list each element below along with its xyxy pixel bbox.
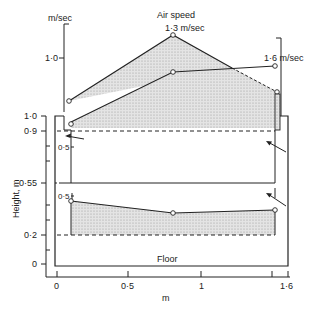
data-point	[273, 208, 278, 213]
outlet-shade	[275, 94, 280, 130]
x-tick-1-6: 1·6	[280, 281, 293, 291]
height-tick-1-0: 1·0	[24, 111, 37, 121]
room-section: 0·5 0·5	[55, 116, 288, 266]
floor-return-shade	[71, 201, 275, 235]
height-tick-0-9: 0·9	[24, 126, 37, 136]
data-point	[69, 122, 74, 127]
lower-scale-tick: 0·5	[58, 192, 70, 201]
data-point	[67, 99, 72, 104]
x-axis: 0 0·5 1 1·6 m	[54, 271, 293, 303]
x-axis-label: m	[162, 293, 170, 303]
data-point	[171, 211, 176, 216]
x-tick-0: 0	[54, 281, 59, 291]
x-tick-0-5: 0·5	[121, 281, 134, 291]
peak-speed-label: 1·3 m/sec	[165, 23, 205, 33]
data-point	[171, 70, 176, 75]
outlet-arrow-lower-icon	[266, 193, 286, 206]
height-axis-label: Height, m	[11, 179, 21, 218]
upper-scale-tick: 0·5	[58, 143, 70, 152]
outlet-arrow-upper-icon	[266, 141, 286, 152]
air-speed-title: Air speed	[157, 10, 195, 20]
height-tick-0-2: 0·2	[24, 230, 37, 240]
airflow-diagram: m/sec 1·0 Air speed 1·3 m/sec 1·6 m/sec …	[0, 0, 317, 314]
floor-label: Floor	[157, 254, 178, 264]
height-tick-0: 0	[32, 259, 37, 269]
right-speed-label: 1·6 m/sec	[264, 53, 304, 63]
data-point	[171, 33, 176, 38]
data-point	[69, 199, 74, 204]
height-axis: 1·0 0·9 0·55 0·2 0 Height, m	[11, 111, 290, 277]
inlet-arrow-icon	[65, 134, 84, 140]
height-tick-0-55: 0·55	[19, 178, 37, 188]
speed-tick-1: 1·0	[45, 53, 58, 63]
x-tick-1: 1	[199, 281, 204, 291]
speed-unit-label: m/sec	[48, 13, 73, 23]
data-point	[273, 64, 278, 69]
speed-axis: m/sec 1·0	[45, 13, 73, 112]
